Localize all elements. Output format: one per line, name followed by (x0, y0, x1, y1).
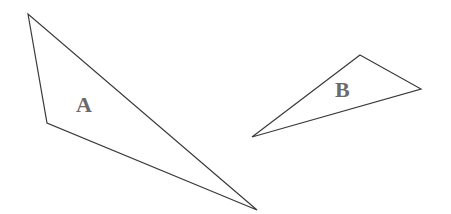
triangle-b-label: B (335, 79, 350, 101)
diagram-canvas (0, 0, 451, 214)
triangle-a (28, 14, 257, 210)
triangle-a-label: A (76, 94, 92, 116)
